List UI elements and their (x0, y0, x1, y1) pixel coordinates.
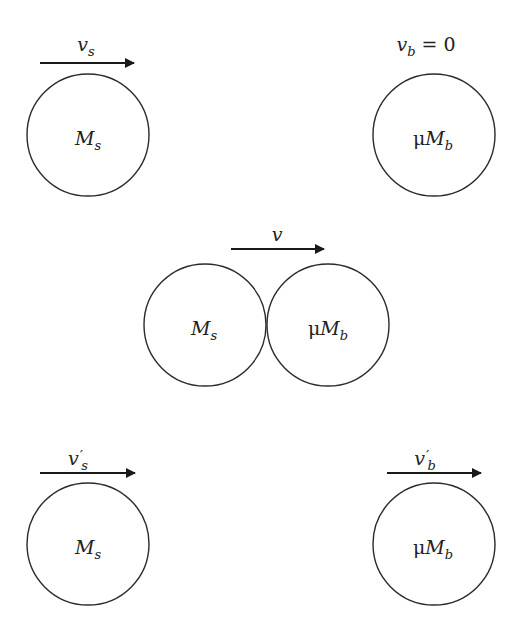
velocity-subscript: s (88, 44, 95, 59)
mass-prefix: μ (308, 317, 320, 339)
velocity-symbol: v (272, 223, 283, 245)
label-mass-ms: Ms (191, 317, 217, 339)
velocity-symbol: v (396, 33, 407, 55)
mass-subscript: b (340, 328, 348, 343)
mass-symbol: M (425, 536, 444, 558)
label-velocity-vs-prime: v′s (68, 447, 88, 469)
label-mass-mb: μMb (413, 536, 453, 558)
velocity-symbol: v (414, 447, 425, 469)
mass-prefix: μ (413, 127, 425, 149)
mass-symbol: M (191, 317, 210, 339)
velocity-value: = 0 (415, 33, 455, 55)
mass-subscript: b (445, 547, 453, 562)
velocity-subscript: s (81, 458, 88, 473)
mass-subscript: s (210, 328, 217, 343)
label-velocity-vs: vs (77, 33, 94, 55)
label-mass-mb: μMb (413, 127, 453, 149)
mass-symbol: M (75, 127, 94, 149)
label-velocity-v: v (272, 223, 283, 245)
label-velocity-vb: vb = 0 (396, 33, 455, 55)
mass-subscript: s (94, 138, 101, 153)
velocity-symbol: v (68, 447, 79, 469)
label-mass-mb: μMb (308, 317, 348, 339)
mass-prefix: μ (413, 536, 425, 558)
mass-subscript: s (94, 547, 101, 562)
mass-symbol: M (75, 536, 94, 558)
velocity-symbol: v (77, 33, 88, 55)
label-mass-ms: Ms (75, 536, 101, 558)
label-velocity-vb-prime: v′b (414, 447, 435, 469)
label-mass-ms: Ms (75, 127, 101, 149)
mass-subscript: b (445, 138, 453, 153)
velocity-subscript: b (407, 44, 415, 59)
collision-diagram: vs Ms vb = 0 μMb v Ms μMb v′s Ms v′b μMb (0, 0, 518, 637)
velocity-subscript: b (427, 458, 435, 473)
mass-symbol: M (320, 317, 339, 339)
mass-symbol: M (425, 127, 444, 149)
